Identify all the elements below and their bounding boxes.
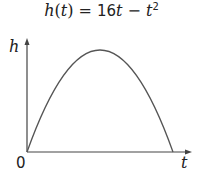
origin-label: 0 [16,154,26,172]
y-axis-label: h [9,37,19,56]
parabola-chart: h t 0 [0,0,203,173]
x-axis-label: t [181,153,188,172]
parabola-curve [27,50,173,152]
y-axis-arrow-icon [25,38,30,45]
